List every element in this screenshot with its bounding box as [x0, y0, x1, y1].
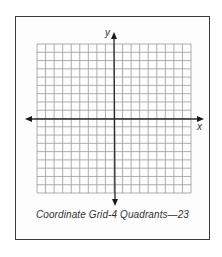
y-axis-label: y — [105, 27, 110, 38]
x-axis-label: x — [197, 121, 202, 132]
y-axis-down-arrow-icon — [112, 199, 118, 206]
figure-caption: Coordinate Grid-4 Quadrants—23 — [15, 209, 210, 220]
y-axis-up-arrow-icon — [111, 32, 117, 39]
x-axis-left-arrow-icon — [25, 116, 32, 122]
